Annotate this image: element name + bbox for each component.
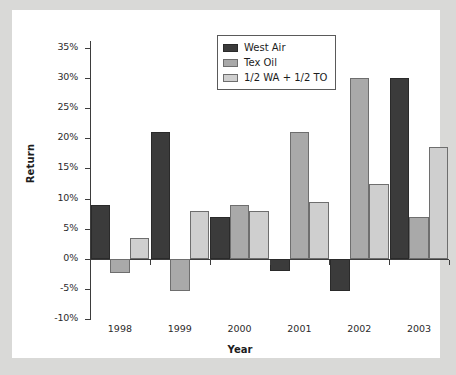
x-axis-tick-label: 1998	[90, 323, 150, 334]
x-axis-tick-label: 2000	[210, 323, 270, 334]
y-axis-labels: 35%30%25%20%15%10%5%0%-5%-10%	[12, 41, 84, 320]
chart-legend: West Air Tex Oil 1/2 WA + 1/2 TO	[217, 35, 336, 90]
chart-page: 35%30%25%20%15%10%5%0%-5%-10% Return 199…	[0, 0, 456, 375]
bar	[290, 132, 310, 259]
y-axis-line	[90, 41, 91, 320]
bar	[190, 211, 210, 259]
bar	[91, 205, 111, 259]
y-axis-tick-label: 20%	[57, 131, 78, 142]
y-axis-tick-label: 5%	[63, 222, 78, 233]
y-axis-tick-label: 10%	[57, 192, 78, 203]
y-axis-tick-label: 0%	[63, 252, 78, 263]
bar	[151, 132, 171, 259]
y-axis-tick	[85, 199, 91, 200]
x-axis-tick	[449, 260, 450, 265]
x-axis-tick-label: 1999	[150, 323, 210, 334]
chart-card: 35%30%25%20%15%10%5%0%-5%-10% Return 199…	[12, 10, 440, 358]
y-axis-tick	[85, 48, 91, 49]
y-axis-tick	[85, 78, 91, 79]
legend-item-west-air[interactable]: West Air	[223, 40, 327, 55]
bar	[210, 217, 230, 259]
y-axis-tick-label: -5%	[60, 282, 78, 293]
bar	[409, 217, 429, 259]
legend-swatch-icon-west-air	[223, 44, 238, 52]
x-axis-tick-label: 2002	[329, 323, 389, 334]
y-axis-tick	[85, 168, 91, 169]
x-axis-tick	[90, 260, 91, 265]
y-axis-tick	[85, 108, 91, 109]
y-axis-title: Return	[25, 134, 36, 194]
y-axis-tick	[85, 289, 91, 290]
x-axis-title: Year	[12, 344, 456, 355]
legend-item-tex-oil[interactable]: Tex Oil	[223, 55, 327, 70]
bar	[270, 259, 290, 271]
y-axis-tick-label: 15%	[57, 161, 78, 172]
bar	[230, 205, 250, 259]
legend-item-blend[interactable]: 1/2 WA + 1/2 TO	[223, 70, 327, 85]
legend-label-blend: 1/2 WA + 1/2 TO	[244, 72, 327, 83]
bar	[330, 259, 350, 291]
bar	[130, 238, 150, 259]
x-axis-tick-label: 2001	[269, 323, 329, 334]
bar	[390, 78, 410, 259]
y-axis-tick-label: 35%	[57, 41, 78, 52]
x-axis-tick	[270, 260, 271, 265]
legend-swatch-icon-blend	[223, 74, 238, 82]
x-axis-tick	[329, 260, 330, 265]
bar	[369, 184, 389, 260]
x-axis-tick	[210, 260, 211, 265]
x-axis-tick	[389, 260, 390, 265]
bar	[350, 78, 370, 259]
bar	[309, 202, 329, 259]
y-axis-tick	[85, 319, 91, 320]
bar	[110, 259, 130, 273]
y-axis-tick	[85, 138, 91, 139]
y-axis-tick-label: 25%	[57, 101, 78, 112]
bar	[170, 259, 190, 291]
y-axis-tick-label: 30%	[57, 71, 78, 82]
x-axis-tick	[150, 260, 151, 265]
legend-swatch-icon-tex-oil	[223, 59, 238, 67]
legend-label-tex-oil: Tex Oil	[244, 57, 277, 68]
y-axis-tick-label: -10%	[54, 312, 78, 323]
bar	[429, 147, 449, 259]
legend-label-west-air: West Air	[244, 42, 286, 53]
x-axis-tick-label: 2003	[389, 323, 449, 334]
bar	[249, 211, 269, 259]
